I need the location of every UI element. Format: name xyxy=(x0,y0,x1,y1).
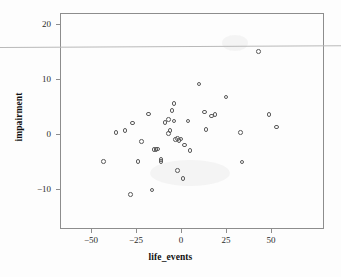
x-axis-title: life_events xyxy=(0,252,341,262)
data-point xyxy=(181,176,186,181)
scatter-plot: −50−250255020100−10 life_events impairme… xyxy=(0,0,341,277)
y-axis-tick xyxy=(56,189,60,190)
y-axis-tick xyxy=(56,79,60,80)
y-axis-title: impairment xyxy=(14,72,24,162)
x-axis-tick-label: −25 xyxy=(116,235,156,245)
y-axis-tick-label: −10 xyxy=(21,184,51,194)
data-point xyxy=(170,108,175,113)
data-point xyxy=(274,125,279,130)
x-axis-tick xyxy=(226,229,227,233)
data-point xyxy=(256,49,261,54)
data-point xyxy=(101,159,106,164)
data-point xyxy=(188,148,193,153)
data-point xyxy=(166,117,171,122)
data-point xyxy=(172,101,177,106)
plot-frame xyxy=(60,13,324,229)
data-point xyxy=(155,147,160,152)
x-axis-tick xyxy=(136,229,137,233)
x-axis-tick-label: 0 xyxy=(161,235,201,245)
data-point xyxy=(202,110,207,115)
x-axis-tick xyxy=(91,229,92,233)
y-axis-tick-label: 10 xyxy=(21,74,51,84)
x-axis-tick-label: 25 xyxy=(206,235,246,245)
data-point xyxy=(172,119,177,124)
data-point xyxy=(136,159,141,164)
data-point xyxy=(182,143,187,148)
x-axis-tick-label: −50 xyxy=(71,235,111,245)
y-axis-tick xyxy=(56,24,60,25)
x-axis-tick xyxy=(181,229,182,233)
x-axis-tick-label: 50 xyxy=(251,235,291,245)
y-axis-tick-label: 20 xyxy=(21,19,51,29)
data-point xyxy=(128,192,133,197)
data-point xyxy=(139,139,144,144)
data-point xyxy=(175,168,180,173)
data-point xyxy=(159,157,164,162)
y-axis-tick xyxy=(56,134,60,135)
y-axis-tick-label: 0 xyxy=(21,129,51,139)
data-point xyxy=(130,121,135,126)
x-axis-tick xyxy=(271,229,272,233)
data-point xyxy=(238,130,243,135)
